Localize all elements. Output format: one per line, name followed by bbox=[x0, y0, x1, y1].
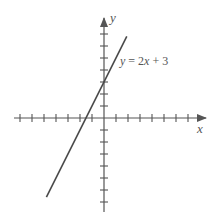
graph-line-y-2x-plus-3 bbox=[46, 36, 126, 197]
y-axis-label: y bbox=[110, 10, 116, 26]
equation-rhs: + 3 bbox=[149, 54, 168, 68]
equation-mid: = 2 bbox=[125, 54, 144, 68]
coordinate-plane bbox=[0, 0, 215, 223]
graph-line bbox=[46, 36, 126, 197]
x-axis-label: x bbox=[197, 121, 203, 137]
equation-label: y = 2x + 3 bbox=[120, 54, 168, 69]
